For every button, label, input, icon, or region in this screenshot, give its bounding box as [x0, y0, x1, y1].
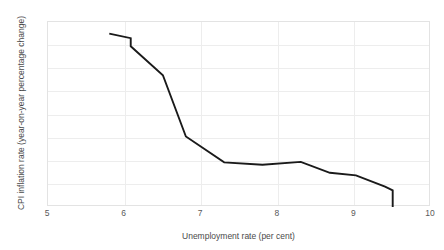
x-tick-label: 6	[109, 209, 139, 218]
plot-area	[47, 21, 430, 206]
x-tick-label: 5	[32, 209, 62, 218]
x-tick-label: 10	[415, 209, 444, 218]
x-tick-label: 8	[262, 209, 292, 218]
x-tick-label: 7	[185, 209, 215, 218]
data-series-line	[48, 22, 431, 207]
phillips-curve-chart: CPI inflation rate (year-on-year percent…	[0, 0, 444, 250]
x-tick-label: 9	[338, 209, 368, 218]
x-axis-title: Unemployment rate (per cent)	[47, 231, 430, 241]
y-axis-title: CPI inflation rate (year-on-year percent…	[16, 6, 26, 221]
